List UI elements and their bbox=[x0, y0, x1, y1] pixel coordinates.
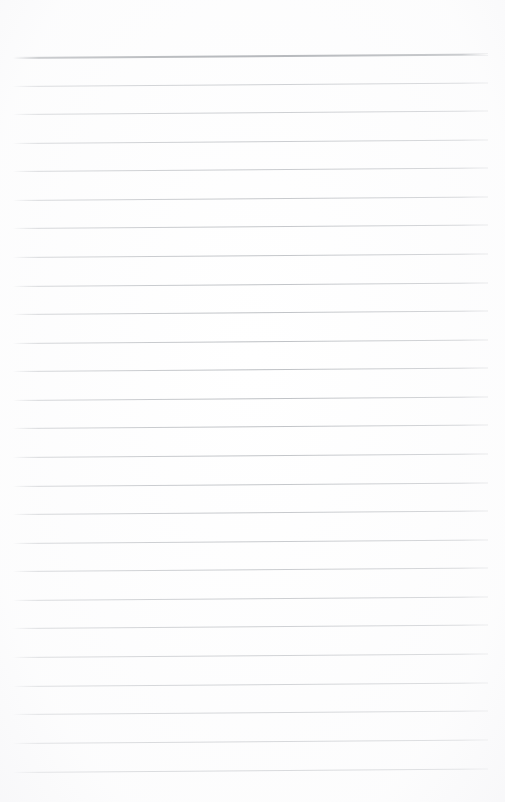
rule-line bbox=[13, 454, 488, 458]
rule-line bbox=[13, 197, 488, 201]
rule-line bbox=[13, 340, 488, 344]
rule-line bbox=[13, 425, 488, 429]
header-rule-line bbox=[13, 54, 488, 59]
rule-line bbox=[13, 225, 488, 229]
rule-line bbox=[13, 254, 488, 258]
rule-line bbox=[13, 597, 488, 601]
rule-line bbox=[13, 683, 488, 687]
rule-line bbox=[13, 568, 488, 572]
rule-line bbox=[13, 711, 488, 715]
rule-line bbox=[13, 540, 488, 544]
ruled-lines-layer bbox=[0, 0, 505, 802]
rule-line bbox=[13, 311, 488, 315]
rule-line bbox=[13, 483, 488, 487]
rule-line bbox=[13, 83, 488, 87]
rule-line bbox=[13, 397, 488, 401]
rule-line bbox=[13, 283, 488, 287]
rule-line bbox=[13, 511, 488, 515]
rule-line bbox=[13, 368, 488, 372]
rule-line bbox=[13, 111, 488, 115]
rule-line bbox=[13, 654, 488, 658]
rule-line bbox=[13, 625, 488, 629]
rule-line bbox=[13, 740, 488, 744]
rule-line bbox=[13, 168, 488, 172]
rule-line bbox=[13, 140, 488, 144]
rule-line bbox=[13, 769, 488, 773]
notepad-page bbox=[0, 0, 505, 802]
